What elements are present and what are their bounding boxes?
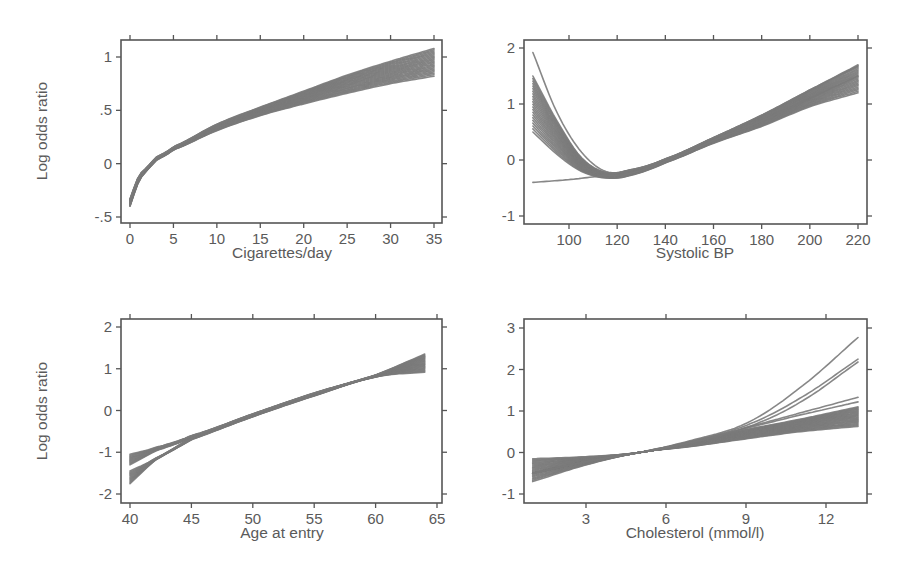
x-tick-label: 200 — [797, 231, 822, 248]
y-axis-label: Log odds ratio — [33, 362, 50, 460]
x-axis-label: Cholesterol (mmol/l) — [626, 524, 765, 541]
y-tick-label: 0 — [104, 155, 112, 172]
y-tick-label: 2 — [507, 39, 515, 56]
figure: 05101520253035-.50.51 Cigarettes/day Log… — [0, 0, 911, 576]
y-tick-label: -2 — [99, 485, 112, 502]
plot-frame — [121, 319, 442, 503]
y-tick-label: 1 — [507, 402, 515, 419]
y-tick-label: .5 — [99, 101, 112, 118]
y-tick-label: 0 — [507, 444, 515, 461]
y-tick-label: 0 — [104, 402, 112, 419]
y-tick-label: 1 — [104, 360, 112, 377]
y-tick-label: 1 — [104, 48, 112, 65]
x-tick-label: 100 — [556, 231, 581, 248]
y-tick-label: 0 — [507, 151, 515, 168]
y-tick-label: 1 — [507, 95, 515, 112]
x-axis-label: Age at entry — [240, 524, 324, 541]
y-tick-label: -.5 — [94, 208, 112, 225]
y-tick-label: -1 — [502, 485, 515, 502]
y-tick-label: -1 — [502, 207, 515, 224]
plot-frame — [524, 40, 867, 224]
x-tick-label: 12 — [818, 510, 835, 527]
x-tick-label: 10 — [209, 230, 226, 247]
x-axis-label: Cigarettes/day — [232, 244, 332, 261]
x-tick-label: 3 — [582, 510, 590, 527]
x-tick-label: 60 — [367, 510, 384, 527]
y-tick-label: -1 — [99, 443, 112, 460]
x-tick-label: 65 — [429, 510, 446, 527]
y-tick-label: 2 — [507, 361, 515, 378]
x-axis-label: Systolic BP — [656, 244, 734, 261]
y-axis-label: Log odds ratio — [33, 82, 50, 180]
x-tick-label: 30 — [382, 230, 399, 247]
x-tick-label: 5 — [169, 230, 177, 247]
x-tick-label: 40 — [122, 510, 139, 527]
x-tick-label: 35 — [426, 230, 443, 247]
x-tick-label: 25 — [339, 230, 356, 247]
x-tick-label: 120 — [605, 231, 630, 248]
x-tick-label: 180 — [749, 231, 774, 248]
y-tick-label: 3 — [507, 319, 515, 336]
x-tick-label: 0 — [126, 230, 134, 247]
x-tick-label: 45 — [183, 510, 200, 527]
x-tick-label: 220 — [845, 231, 870, 248]
y-tick-label: 2 — [104, 318, 112, 335]
